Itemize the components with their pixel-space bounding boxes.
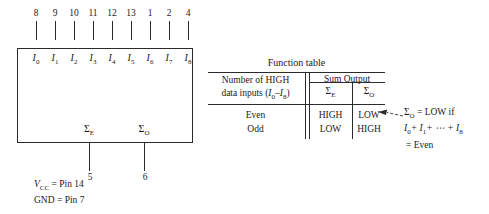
callout-line-2: I0+ I1+ ⋯ + I8 — [404, 122, 463, 138]
table-header-sigma-e: ΣE — [309, 86, 352, 99]
pin-lead-line — [112, 21, 113, 40]
table-header-sigma-o: ΣO — [353, 86, 385, 99]
table-row: Even — [208, 108, 303, 122]
header-line-2: data inputs (I0–I8) — [208, 87, 303, 104]
function-table: Number of HIGH data inputs (I0–I8) Sum O… — [208, 72, 385, 139]
table-divider-double-left — [305, 72, 306, 139]
table-row: HIGH — [353, 122, 385, 136]
pin-column: 2 — [160, 8, 178, 40]
pin-number: 4 — [179, 8, 197, 19]
pin-number: 8 — [27, 8, 45, 19]
pin-number: 11 — [84, 8, 102, 19]
pin-number: 12 — [103, 8, 121, 19]
pin-column: 10 — [65, 8, 83, 40]
table-rule-top — [208, 72, 385, 73]
table-column-sigma-e: HIGH LOW — [309, 108, 352, 136]
pin-number: 9 — [46, 8, 64, 19]
table-row: LOW — [309, 122, 352, 136]
callout-line-1: ΣO = LOW if — [404, 106, 463, 122]
pin-column: 9 — [46, 8, 64, 40]
table-header-sum-output: Sum Output — [309, 74, 385, 84]
output-lead-line — [89, 143, 90, 171]
output-lead-line — [144, 143, 145, 171]
table-rule-middle — [208, 104, 385, 105]
pin-column: 4 — [179, 8, 197, 40]
table-row: HIGH — [309, 108, 352, 122]
gnd-note: GND = Pin 7 — [34, 194, 85, 207]
pin-column: 8 — [27, 8, 45, 40]
pin-column: 13 — [122, 8, 140, 40]
figure-canvas: 8 9 10 11 12 13 1 2 — [0, 0, 489, 214]
pin-number: 10 — [65, 8, 83, 19]
pin-lead-line — [188, 21, 189, 40]
function-table-title: Function table — [208, 57, 385, 68]
table-header-left: Number of HIGH data inputs (I0–I8) — [208, 74, 303, 104]
table-row: Odd — [208, 122, 303, 136]
pin-column: 12 — [103, 8, 121, 40]
pin-lead-line — [36, 21, 37, 40]
pin-column: 1 — [141, 8, 159, 40]
callout-arrow-icon — [378, 109, 404, 118]
callout-line-3: = Even — [404, 139, 463, 152]
callout-note: ΣO = LOW if I0+ I1+ ⋯ + I8 = Even — [404, 106, 463, 151]
pin-lead-line — [150, 21, 151, 40]
pin-lead-line — [131, 21, 132, 40]
output-pin-number: 6 — [135, 172, 155, 182]
output-label-sigma-e: ΣE — [72, 123, 106, 137]
vcc-note: VCC = Pin 14 — [34, 178, 85, 194]
pin-lead-line — [74, 21, 75, 40]
pin-number: 2 — [160, 8, 178, 19]
pin-number: 13 — [122, 8, 140, 19]
pin-number: 1 — [141, 8, 159, 19]
supply-notes: VCC = Pin 14 GND = Pin 7 — [34, 178, 85, 207]
header-line-1: Number of HIGH — [208, 74, 303, 87]
table-column-condition: Even Odd — [208, 108, 303, 136]
output-label-sigma-o: ΣO — [127, 123, 161, 137]
pin-lead-line — [55, 21, 56, 40]
input-label-i8: I8 — [177, 52, 199, 66]
pin-column: 11 — [84, 8, 102, 40]
pin-lead-line — [169, 21, 170, 40]
pin-lead-line — [93, 21, 94, 40]
